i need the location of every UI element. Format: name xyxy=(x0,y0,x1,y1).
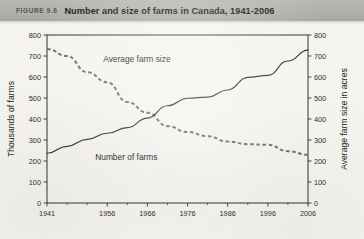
y-axis-left-labels: 0100200300400500600700800 xyxy=(29,31,41,208)
svg-text:100: 100 xyxy=(29,178,41,187)
svg-text:1986: 1986 xyxy=(220,209,236,218)
svg-text:500: 500 xyxy=(29,94,41,103)
svg-text:100: 100 xyxy=(314,178,326,187)
figure-title: Number and size of farms in Canada, 1941… xyxy=(64,6,274,16)
svg-text:1976: 1976 xyxy=(179,209,195,218)
svg-text:200: 200 xyxy=(314,157,326,166)
y-axis-left-ticks xyxy=(44,35,48,203)
figure-page: FIGURE 9.6 Number and size of farms in C… xyxy=(0,0,364,239)
svg-text:400: 400 xyxy=(314,115,326,124)
svg-text:0: 0 xyxy=(37,199,41,208)
series-line-number-of-farms xyxy=(47,50,308,153)
data-series xyxy=(47,49,308,155)
svg-text:500: 500 xyxy=(314,94,326,103)
svg-text:600: 600 xyxy=(314,73,326,82)
y-axis-right-ticks xyxy=(308,35,312,203)
svg-text:1996: 1996 xyxy=(260,209,276,218)
x-axis-tick-labels: 1941195619661976198619962006 xyxy=(39,209,316,218)
figure-number-label: FIGURE 9.6 xyxy=(16,7,57,14)
svg-text:800: 800 xyxy=(29,31,41,40)
svg-text:1956: 1956 xyxy=(99,209,115,218)
x-axis-ticks xyxy=(47,203,308,207)
series-annotations: Average farm sizeNumber of farms xyxy=(95,54,171,162)
line-chart-svg: 1941195619661976198619962006 01002003004… xyxy=(0,21,364,239)
svg-text:400: 400 xyxy=(29,115,41,124)
svg-text:1941: 1941 xyxy=(39,209,55,218)
figure-title-bar: FIGURE 9.6 Number and size of farms in C… xyxy=(0,0,364,21)
chart-area: 1941195619661976198619962006 01002003004… xyxy=(0,21,364,239)
y-axis-right-labels: 0100200300400500600700800 xyxy=(314,31,326,208)
svg-text:1966: 1966 xyxy=(139,209,155,218)
svg-text:300: 300 xyxy=(29,136,41,145)
svg-text:200: 200 xyxy=(29,157,41,166)
svg-text:600: 600 xyxy=(29,73,41,82)
annotation-average-farm-size: Average farm size xyxy=(103,54,171,64)
svg-text:700: 700 xyxy=(29,52,41,61)
svg-text:300: 300 xyxy=(314,136,326,145)
svg-text:2006: 2006 xyxy=(300,209,316,218)
svg-text:800: 800 xyxy=(314,31,326,40)
y-axis-left-title: Thousands of farms xyxy=(6,81,16,157)
annotation-number-of-farms: Number of farms xyxy=(95,152,157,162)
y-axis-right-title: Average farm size in acres xyxy=(339,68,349,170)
svg-text:0: 0 xyxy=(314,199,318,208)
svg-text:700: 700 xyxy=(314,52,326,61)
plot-frame xyxy=(47,35,308,203)
